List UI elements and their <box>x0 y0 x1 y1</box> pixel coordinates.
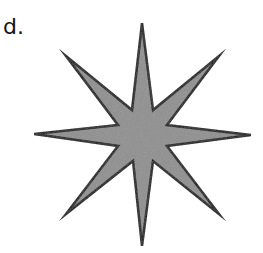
star-icon <box>34 23 251 246</box>
star-figure <box>0 0 263 253</box>
